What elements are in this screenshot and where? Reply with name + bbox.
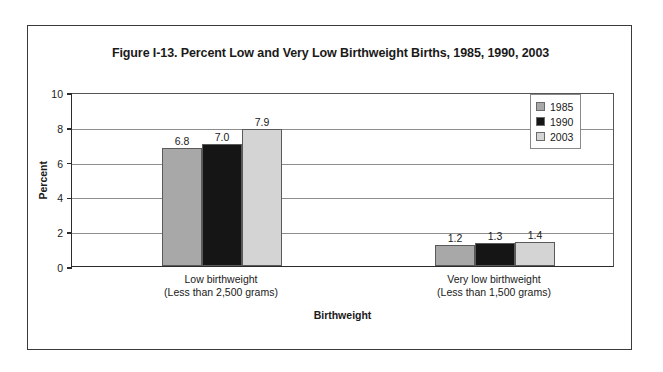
figure-frame: Figure I-13. Percent Low and Very Low Bi…	[27, 25, 632, 350]
legend-item: 1985	[536, 99, 573, 114]
y-tick-label: 8	[57, 123, 63, 135]
y-axis-title-text: Percent	[37, 161, 49, 200]
bar-value-label: 7.0	[215, 131, 230, 143]
bar	[202, 144, 242, 266]
x-category-label-line: Low birthweight	[164, 273, 278, 286]
legend-label: 1990	[550, 116, 573, 128]
y-gridline	[72, 164, 613, 165]
y-tick-mark	[67, 128, 72, 130]
bar-value-label: 1.3	[488, 230, 503, 242]
y-tick-label: 10	[51, 88, 63, 100]
bar	[242, 129, 282, 266]
x-axis-title: Birthweight	[71, 309, 614, 321]
x-category-label-line: Very low birthweight	[437, 273, 551, 286]
legend-label: 2003	[550, 131, 573, 143]
y-tick-label: 0	[57, 262, 63, 274]
chart-legend: 198519902003	[530, 94, 581, 149]
y-tick-label: 6	[57, 158, 63, 170]
x-category-label-line: (Less than 1,500 grams)	[437, 286, 551, 299]
chart-title: Figure I-13. Percent Low and Very Low Bi…	[28, 46, 633, 60]
bar-value-label: 6.8	[175, 135, 190, 147]
y-gridline	[72, 198, 613, 199]
y-tick-label: 2	[57, 227, 63, 239]
bar-value-label: 1.4	[528, 229, 543, 241]
x-category-label-line: (Less than 2,500 grams)	[164, 286, 278, 299]
legend-item: 1990	[536, 114, 573, 129]
bar-value-label: 7.9	[255, 116, 270, 128]
legend-swatch-icon	[536, 132, 545, 141]
y-tick-mark	[67, 267, 72, 269]
x-category-label: Low birthweight(Less than 2,500 grams)	[164, 273, 278, 299]
bar	[475, 243, 515, 266]
legend-item: 2003	[536, 129, 573, 144]
y-tick-mark	[67, 93, 72, 95]
y-tick-mark	[67, 198, 72, 200]
bar	[435, 245, 475, 266]
y-tick-mark	[67, 232, 72, 234]
legend-swatch-icon	[536, 117, 545, 126]
legend-label: 1985	[550, 101, 573, 113]
y-tick-label: 4	[57, 192, 63, 204]
x-category-label: Very low birthweight(Less than 1,500 gra…	[437, 273, 551, 299]
y-axis-title: Percent	[36, 93, 50, 267]
bar	[515, 242, 555, 266]
bar	[162, 148, 202, 266]
bar-value-label: 1.2	[448, 232, 463, 244]
y-tick-mark	[67, 163, 72, 165]
legend-swatch-icon	[536, 102, 545, 111]
